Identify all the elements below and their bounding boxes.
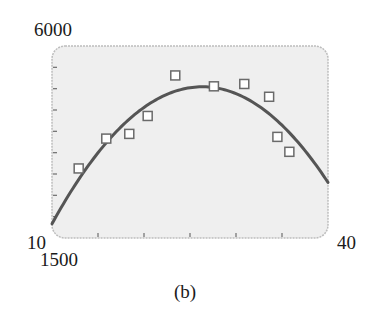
data-point-marker xyxy=(171,71,180,80)
data-point-marker xyxy=(102,134,111,143)
data-point-marker xyxy=(143,111,152,120)
data-point-marker xyxy=(125,129,134,138)
plot-area xyxy=(52,46,328,238)
x-max-label: 40 xyxy=(337,233,356,252)
y-max-label: 6000 xyxy=(34,20,72,39)
data-point-marker xyxy=(265,92,274,101)
data-point-marker xyxy=(209,82,218,91)
chart-caption: (b) xyxy=(174,282,196,301)
data-point-marker xyxy=(285,147,294,156)
y-min-label: 1500 xyxy=(40,250,78,269)
data-point-marker xyxy=(240,79,249,88)
data-point-marker xyxy=(273,132,282,141)
data-point-marker xyxy=(74,164,83,173)
